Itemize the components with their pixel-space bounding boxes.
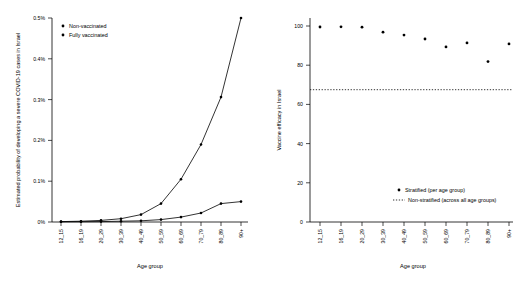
right-xtick-3: 30_39: [380, 229, 386, 244]
left-chart-panel: 0% 0.1% 0.2% 0.3% 0.4% 0.5% 12_15: [0, 0, 263, 284]
right-legend: Stratified (per age group) Non-stratifie…: [393, 187, 497, 203]
right-chart-panel: 0 20 40 60 80 100 12_15 16_19: [263, 0, 527, 284]
right-y-axis-title: Vaccine efficacy in Israel: [276, 89, 282, 150]
left-y-axis-title: Estimated probability of developing a se…: [15, 33, 21, 207]
right-legend-label-1: Non-stratified (across all age groups): [408, 197, 497, 203]
right-ytick-1: 20: [297, 180, 303, 186]
right-x-axis-title: Age group: [400, 263, 426, 269]
left-series-fullyvaccinated-points: [60, 200, 243, 223]
left-chart-svg: 0% 0.1% 0.2% 0.3% 0.4% 0.5% 12_15: [0, 0, 263, 284]
left-xtick-7: 70_79: [198, 229, 204, 244]
right-chart-svg: 0 20 40 60 80 100 12_15 16_19: [263, 0, 527, 284]
left-ytick-2: 0.2%: [33, 137, 45, 143]
right-xtick-5: 50_59: [422, 229, 428, 244]
right-ytick-4: 80: [297, 62, 303, 68]
right-xtick-1: 16_19: [338, 229, 344, 244]
right-xtick-6: 60_69: [443, 229, 449, 244]
left-series-nonvaccinated-points: [60, 17, 243, 223]
right-ytick-2: 40: [297, 141, 303, 147]
left-ytick-4: 0.4%: [33, 56, 45, 62]
right-ytick-0: 0: [300, 219, 303, 225]
right-series-stratified-points: [319, 25, 511, 63]
left-xtick-4: 40_49: [138, 229, 144, 244]
left-xtick-1: 16_19: [78, 229, 84, 244]
right-xtick-8: 80_89: [485, 229, 491, 244]
left-xtick-6: 60_69: [178, 229, 184, 244]
left-legend-marker-0: [62, 25, 65, 28]
left-series-nonvaccinated-line: [61, 18, 241, 222]
left-y-ticks: 0% 0.1% 0.2% 0.3% 0.4% 0.5%: [33, 15, 52, 225]
left-ytick-5: 0.5%: [33, 15, 45, 21]
left-ytick-3: 0.3%: [33, 97, 45, 103]
right-xtick-7: 70_79: [464, 229, 470, 244]
left-xtick-2: 20_29: [98, 229, 104, 244]
right-xtick-9: 90+: [506, 229, 512, 238]
right-xtick-0: 12_15: [317, 229, 323, 244]
right-x-ticks: 12_15 16_19 20_29 30_39 40_49 50_59 60_6…: [317, 222, 512, 243]
left-ytick-0: 0%: [38, 219, 46, 225]
left-xtick-0: 12_15: [58, 229, 64, 244]
right-ytick-3: 60: [297, 101, 303, 107]
right-legend-label-0: Stratified (per age group): [405, 187, 465, 193]
left-legend: Non-vaccinated Fully vaccinated: [62, 23, 108, 38]
left-xtick-5: 50_59: [158, 229, 164, 244]
left-xtick-3: 30_39: [118, 229, 124, 244]
left-xtick-9: 90+: [238, 229, 244, 238]
figure-root: 0% 0.1% 0.2% 0.3% 0.4% 0.5% 12_15: [0, 0, 527, 284]
left-legend-label-0: Non-vaccinated: [69, 23, 106, 29]
left-series-fullyvaccinated-line: [61, 202, 241, 222]
left-xtick-8: 80_89: [218, 229, 224, 244]
left-x-axis-title: Age group: [137, 263, 163, 269]
left-legend-marker-1: [62, 34, 65, 37]
right-xtick-4: 40_49: [401, 229, 407, 244]
right-xtick-2: 20_29: [359, 229, 365, 244]
right-ytick-5: 100: [294, 23, 303, 29]
left-ytick-1: 0.1%: [33, 178, 45, 184]
right-legend-marker-0: [398, 189, 401, 192]
right-y-ticks: 0 20 40 60 80 100: [294, 23, 310, 225]
left-legend-label-1: Fully vaccinated: [69, 32, 108, 38]
left-x-ticks: 12_15 16_19 20_29 30_39 40_49 50_59 60_6…: [58, 222, 244, 243]
